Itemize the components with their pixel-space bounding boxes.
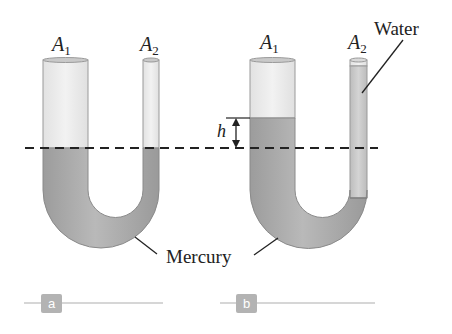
mercury-leader-right — [254, 238, 278, 255]
water-label: Water — [374, 18, 420, 39]
tube-a1-glass — [43, 60, 88, 148]
tube-b1-cap — [250, 58, 295, 63]
tube-a2-glass — [143, 60, 159, 148]
h-arrow-up-icon — [232, 118, 240, 126]
svg-text:a: a — [48, 296, 56, 311]
tube-a1-cap — [43, 58, 88, 63]
label-b1: A1 — [258, 31, 279, 56]
panel-tag-b: b — [220, 294, 375, 313]
tube-a2-cap — [143, 58, 159, 62]
label-b2: A2 — [346, 31, 367, 56]
label-a1: A1 — [50, 33, 71, 58]
h-label: h — [217, 121, 226, 141]
panel-a: A1 A2 — [43, 33, 159, 248]
panel-tag-a: a — [24, 294, 163, 313]
mercury-u-b — [250, 118, 367, 249]
mercury-label: Mercury — [166, 246, 232, 267]
label-a2: A2 — [138, 33, 159, 58]
panel-b: A1 A2 Water h — [217, 18, 420, 249]
tube-b2-cap — [350, 58, 367, 62]
tube-b1-glass — [250, 60, 295, 118]
h-arrow-down-icon — [232, 140, 240, 148]
u-tube-diagram: A1 A2 A1 A2 Water h — [0, 0, 452, 334]
mercury-u-a — [43, 148, 159, 248]
water-leader-line — [362, 40, 403, 93]
svg-text:b: b — [243, 296, 250, 311]
water-column — [350, 66, 367, 198]
mercury-leader-left — [135, 237, 157, 254]
